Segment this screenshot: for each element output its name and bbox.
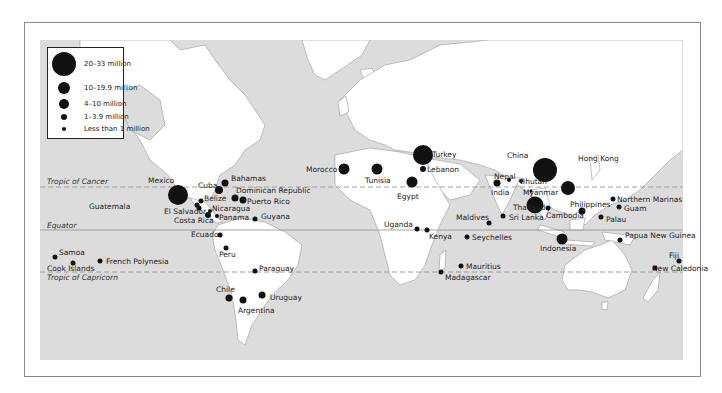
destination-label: Sri Lanka: [509, 214, 544, 222]
destination-label: Papua New Guinea: [625, 232, 696, 240]
destination-dot: [415, 227, 420, 232]
destination-dot: [561, 181, 575, 195]
destination-dot: [253, 269, 258, 274]
destination-label: Indonesia: [540, 245, 576, 253]
legend-dot-4-10: [59, 99, 69, 109]
legend-dot-1-3: [61, 114, 67, 120]
destination-dot: [372, 164, 383, 175]
destination-label: Seychelles: [472, 234, 512, 242]
destination-label: Nepal: [494, 173, 516, 181]
destination-dot: [465, 235, 470, 240]
legend-label: 4–10 million: [84, 100, 126, 108]
destination-label: Mexico: [148, 177, 174, 185]
destination-label: China: [507, 152, 528, 160]
equator-label: Equator: [47, 221, 76, 230]
destination-label: Costa Rica: [174, 217, 214, 225]
legend-label: 1–3.9 million: [84, 113, 129, 121]
destination-label: Argentina: [238, 307, 275, 315]
destination-dot: [53, 255, 58, 260]
legend-label: Less than 1 million: [84, 125, 150, 133]
destination-label: Guatemala: [89, 203, 130, 211]
destination-label: Maldives: [456, 214, 489, 222]
legend-dot-less-1: [62, 127, 66, 131]
destination-dot: [168, 185, 188, 205]
destination-dot: [413, 145, 433, 165]
destination-label: Guam: [624, 205, 646, 213]
destination-label: Lebanon: [427, 166, 459, 174]
destination-label: Myanmar: [523, 189, 558, 197]
destination-label: Madagascar: [445, 274, 491, 282]
destination-label: Ecuador: [191, 231, 222, 239]
destination-label: Paraguay: [259, 265, 294, 273]
tropic-of-capricorn-label: Tropic of Capricorn: [47, 273, 118, 282]
destination-label: Palau: [606, 216, 626, 224]
destination-label: Peru: [219, 251, 236, 259]
destination-label: New Caledonia: [652, 265, 708, 273]
destination-dot: [232, 195, 239, 202]
destination-label: Uganda: [384, 221, 413, 229]
destination-label: El Salvador: [164, 208, 206, 216]
destination-label: Northern Marinas: [617, 196, 682, 204]
destination-label: Hong Kong: [578, 155, 619, 163]
destination-dot: [259, 292, 266, 299]
destination-dot: [533, 158, 557, 182]
destination-label: Morocco: [306, 166, 337, 174]
destination-label: Nicaragua: [212, 205, 250, 213]
destination-dot: [222, 180, 229, 187]
destination-dot: [199, 199, 204, 204]
destination-dot: [240, 297, 247, 304]
destination-dot: [407, 177, 418, 188]
destination-label: Kenya: [429, 233, 452, 241]
destination-dot: [618, 238, 623, 243]
destination-label: Samoa: [59, 249, 85, 257]
destination-label: Bahamas: [231, 175, 266, 183]
destination-label: Uruguay: [270, 294, 302, 302]
destination-dot: [599, 215, 604, 220]
destination-label: Turkey: [432, 151, 456, 159]
destination-label: Cuba: [198, 182, 217, 190]
destination-dot: [98, 259, 103, 264]
destination-label: Cook Islands: [47, 265, 94, 273]
destination-dot: [557, 234, 568, 245]
destination-dot: [459, 264, 464, 269]
legend-dot-10-19: [58, 82, 70, 94]
destination-label: French Polynesia: [106, 258, 169, 266]
destination-dot: [339, 164, 350, 175]
destination-label: Fiji: [669, 252, 679, 260]
destination-label: Thailand: [513, 204, 545, 212]
destination-dot: [611, 197, 616, 202]
destination-dot: [617, 205, 622, 210]
tropic-of-cancer-label: Tropic of Cancer: [47, 177, 108, 186]
destination-label: Puerto Rico: [247, 198, 290, 206]
legend-label: 10–19.9 million: [84, 84, 138, 92]
destination-dot: [501, 214, 506, 219]
destination-label: Belize: [204, 195, 226, 203]
destination-label: Philippines: [570, 201, 610, 209]
destination-dot: [439, 270, 444, 275]
destination-label: Guyana: [261, 213, 290, 221]
destination-dot: [546, 206, 551, 211]
destination-label: Tunisia: [365, 177, 391, 185]
destination-dot: [240, 197, 247, 204]
destination-label: Egypt: [397, 193, 419, 201]
destination-label: Chile: [216, 286, 235, 294]
destination-dot: [253, 217, 258, 222]
legend-label: 20–33 million: [84, 60, 131, 68]
destination-dot: [226, 295, 233, 302]
destination-dot: [420, 166, 426, 172]
legend-dot-20-33: [52, 52, 76, 76]
destination-label: Mauritius: [466, 263, 501, 271]
destination-label: Dominican Republic: [236, 187, 311, 195]
destination-label: Panama: [219, 214, 249, 222]
destination-label: India: [491, 189, 509, 197]
legend: 20–33 million 10–19.9 million 4–10 milli…: [47, 47, 124, 139]
